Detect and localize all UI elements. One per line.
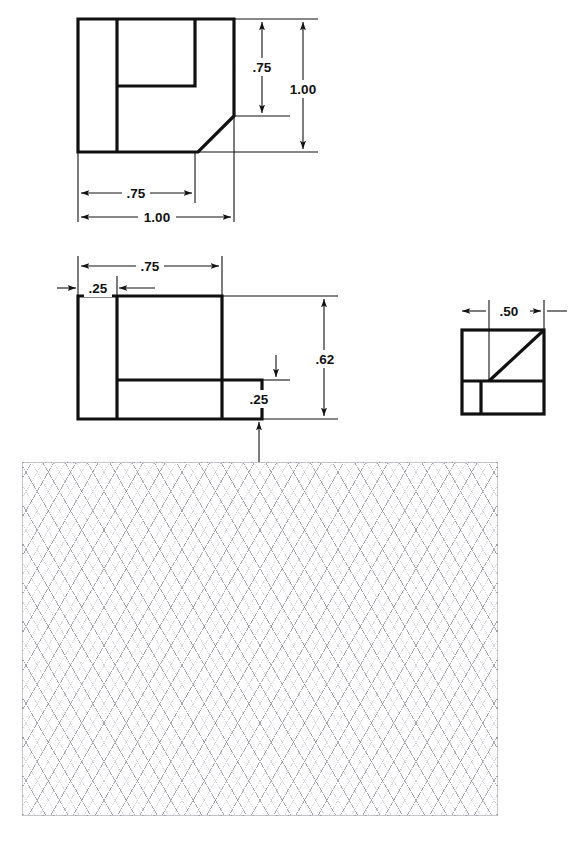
top-view-group	[78, 19, 234, 152]
top-view-dimension-text: .75 1.00 .75 1.00	[122, 58, 322, 226]
front-view-group	[78, 296, 262, 419]
front-view-dimension-text: .75 .25 .62 .25	[84, 257, 339, 408]
right-side-view-group	[462, 330, 544, 414]
front-view-outline	[78, 296, 262, 419]
right-view-chamfer-edge	[489, 330, 544, 381]
dim-text-top-horizontal-inner: .75	[127, 186, 146, 201]
dim-text-top-vertical-outer: 1.00	[290, 82, 316, 97]
dim-text-top-horizontal-outer: 1.00	[144, 210, 170, 225]
dim-text-right-horizontal: .50	[500, 304, 519, 319]
isometric-grid-paper[interactable]	[22, 462, 498, 816]
dim-text-front-vertical-inner: .25	[250, 392, 269, 407]
top-view-slot-edges	[117, 19, 195, 86]
dim-text-front-horizontal-inner: .25	[89, 281, 108, 296]
drawing-sheet: .75 1.00 .75 1.00	[0, 0, 582, 841]
dim-text-front-vertical-outer: .62	[316, 352, 335, 367]
right-side-view-dimension-text: .50	[494, 302, 524, 320]
top-view-dimension-lines	[78, 19, 318, 222]
dim-text-front-horizontal-outer: .75	[141, 259, 160, 274]
dim-text-top-vertical-inner: .75	[253, 60, 272, 75]
